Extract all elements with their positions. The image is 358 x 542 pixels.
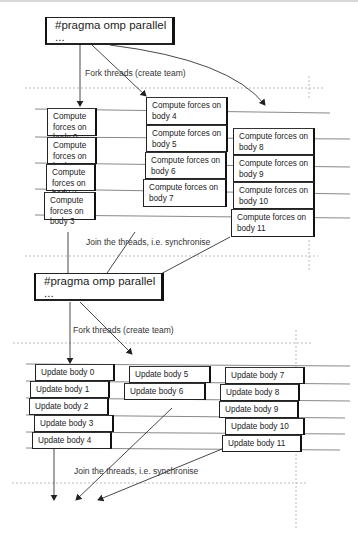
task-update-body-5: Update body 5 bbox=[129, 366, 211, 383]
task-update-body-3: Update body 3 bbox=[34, 415, 114, 432]
join-label-2: Join the threads, i.e. synchronise bbox=[74, 466, 198, 476]
connector-lines bbox=[0, 0, 358, 542]
fork-label-2: Fork threads (create team) bbox=[73, 325, 174, 335]
task-update-body-11: Update body 11 bbox=[222, 435, 302, 452]
task-update-body-2: Update body 2 bbox=[29, 398, 109, 415]
task-update-body-0: Update body 0 bbox=[35, 364, 115, 381]
task-update-body-9: Update body 9 bbox=[219, 401, 299, 418]
pragma-box-1: #pragma omp parallel ... bbox=[45, 17, 175, 45]
pragma-box-2: #pragma omp parallel ... bbox=[34, 273, 164, 301]
task-update-body-6: Update body 6 bbox=[124, 383, 206, 400]
task-compute-body-4: Compute forces on body 4 bbox=[146, 97, 228, 125]
task-compute-body-1: Compute forces on body 1 bbox=[47, 137, 97, 164]
task-compute-body-10: Compute forces on body 10 bbox=[233, 182, 315, 209]
task-update-body-7: Update body 7 bbox=[225, 367, 305, 384]
task-compute-body-2: Compute forces on body 2 bbox=[46, 164, 96, 191]
task-compute-body-7: Compute forces on body 7 bbox=[143, 179, 227, 207]
task-compute-body-0: Compute forces on body 0 bbox=[47, 108, 97, 136]
task-update-body-4: Update body 4 bbox=[32, 432, 112, 449]
fork-label-1: Fork threads (create team) bbox=[85, 68, 186, 78]
task-compute-body-8: Compute forces on body 8 bbox=[233, 128, 315, 155]
join-label-1: Join the threads, i.e. synchronise bbox=[86, 237, 210, 247]
task-compute-body-5: Compute forces on body 5 bbox=[146, 125, 228, 152]
task-compute-body-6: Compute forces on body 6 bbox=[145, 152, 227, 179]
task-compute-body-11: Compute forces on body 11 bbox=[231, 209, 315, 237]
task-compute-body-9: Compute forces on body 9 bbox=[233, 155, 315, 182]
task-update-body-10: Update body 10 bbox=[225, 418, 305, 435]
task-update-body-1: Update body 1 bbox=[30, 381, 110, 398]
task-compute-body-3: Compute forces on body 3 bbox=[44, 192, 96, 220]
task-update-body-8: Update body 8 bbox=[220, 384, 300, 401]
